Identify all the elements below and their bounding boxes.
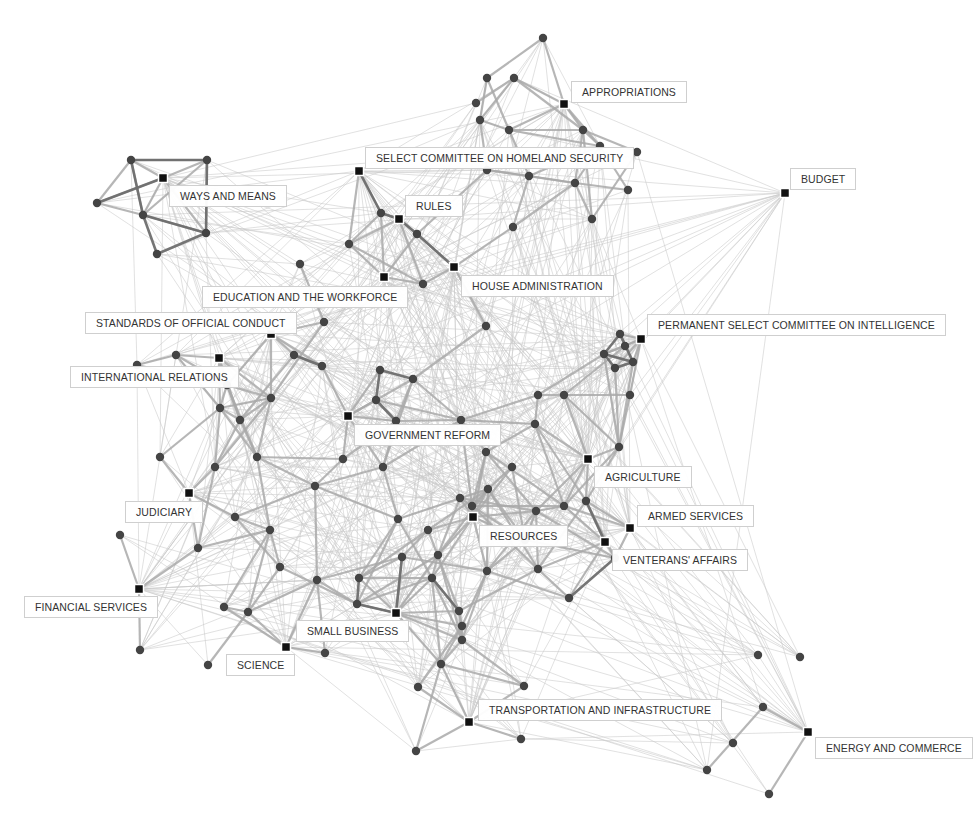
edge xyxy=(641,339,800,657)
member-node xyxy=(437,660,445,668)
member-node xyxy=(624,186,632,194)
edge xyxy=(137,365,139,589)
member-node xyxy=(244,608,252,616)
member-node xyxy=(136,646,144,654)
member-node xyxy=(457,416,465,424)
edge xyxy=(521,732,808,739)
member-node xyxy=(203,156,211,164)
label-small-business: SMALL BUSINESS xyxy=(296,620,409,642)
label-science: SCIENCE xyxy=(226,654,295,676)
member-node xyxy=(626,391,634,399)
committee-node-veterans xyxy=(601,538,610,547)
label-homeland-security: SELECT COMMITTEE ON HOMELAND SECURITY xyxy=(365,147,634,169)
member-node xyxy=(600,350,608,358)
committee-node-armed xyxy=(626,524,635,533)
committee-node-energy xyxy=(804,728,813,737)
member-node xyxy=(172,351,180,359)
edge xyxy=(512,227,513,467)
member-node xyxy=(313,576,321,584)
member-node xyxy=(202,229,210,237)
label-house-administration: HOUSE ADMINISTRATION xyxy=(461,275,614,297)
label-energy-commerce: ENERGY AND COMMERCE xyxy=(815,737,973,759)
member-node xyxy=(482,448,490,456)
edge xyxy=(160,457,189,493)
member-node xyxy=(629,358,637,366)
member-node xyxy=(345,240,353,248)
member-node xyxy=(765,790,773,798)
member-node xyxy=(509,223,517,231)
member-node xyxy=(482,322,490,330)
member-node xyxy=(472,99,480,107)
label-financial-services: FINANCIAL SERVICES xyxy=(24,596,158,618)
member-node xyxy=(296,260,304,268)
member-node xyxy=(355,574,363,582)
member-node xyxy=(611,364,619,372)
edge xyxy=(286,647,416,751)
member-node xyxy=(398,553,406,561)
edge xyxy=(769,732,808,794)
member-node xyxy=(220,603,228,611)
label-resources: RESOURCES xyxy=(479,525,568,547)
committee-node-education xyxy=(380,273,389,282)
member-node xyxy=(267,394,275,402)
committee-node-agriculture xyxy=(584,455,593,464)
member-node xyxy=(318,362,326,370)
member-node xyxy=(729,739,737,747)
member-node xyxy=(413,230,421,238)
committee-node-financial xyxy=(135,585,144,594)
edge xyxy=(97,203,143,215)
member-node xyxy=(458,622,466,630)
member-node xyxy=(93,199,101,207)
member-node xyxy=(796,653,804,661)
committee-node-budget xyxy=(781,189,790,198)
member-node xyxy=(534,391,542,399)
member-node xyxy=(468,502,476,510)
member-node xyxy=(194,544,202,552)
label-ways-and-means: WAYS AND MEANS xyxy=(169,185,287,207)
member-node xyxy=(510,74,518,82)
member-node xyxy=(236,416,244,424)
member-node xyxy=(483,74,491,82)
label-education-workforce: EDUCATION AND THE WORKFORCE xyxy=(202,286,408,308)
member-node xyxy=(560,391,568,399)
edge xyxy=(487,78,509,130)
member-node xyxy=(456,494,464,502)
member-node xyxy=(703,766,711,774)
member-node xyxy=(231,513,239,521)
member-node xyxy=(156,453,164,461)
member-node xyxy=(211,463,219,471)
member-node xyxy=(204,661,212,669)
member-node xyxy=(434,551,442,559)
member-node xyxy=(525,172,533,180)
member-node xyxy=(517,735,525,743)
member-node xyxy=(290,351,298,359)
label-government-reform: GOVERNMENT REFORM xyxy=(354,424,501,446)
committee-node-homeland xyxy=(355,167,364,176)
member-node xyxy=(321,649,329,657)
label-agriculture: AGRICULTURE xyxy=(594,466,692,488)
edge xyxy=(396,420,461,421)
committee-node-judiciary xyxy=(185,489,194,498)
edge xyxy=(469,722,707,770)
member-node xyxy=(127,156,135,164)
member-node xyxy=(754,651,762,659)
label-international-relations: INTERNATIONAL RELATIONS xyxy=(70,366,239,388)
member-node xyxy=(139,211,147,219)
member-node xyxy=(253,453,261,461)
member-node xyxy=(376,366,384,374)
member-node xyxy=(409,375,417,383)
member-node xyxy=(532,507,540,515)
label-veterans-affairs: VENTERANS' AFFAIRS xyxy=(612,549,748,571)
member-node xyxy=(372,396,380,404)
member-node xyxy=(539,34,547,42)
member-node xyxy=(508,463,516,471)
member-node xyxy=(560,502,568,510)
member-node xyxy=(615,443,623,451)
committee-node-science xyxy=(282,643,291,652)
member-node xyxy=(153,250,161,258)
label-intelligence: PERMANENT SELECT COMMITTEE ON INTELLIGEN… xyxy=(647,314,946,336)
member-node xyxy=(419,280,427,288)
label-transportation: TRANSPORTATION AND INFRASTRUCTURE xyxy=(478,699,722,721)
committee-node-appropriations xyxy=(560,100,569,109)
member-node xyxy=(483,567,491,575)
